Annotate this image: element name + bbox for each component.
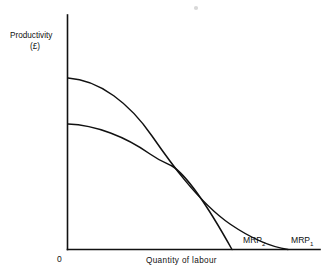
y-axis-label-line1: Productivity xyxy=(10,31,53,40)
y-axis-label-line2: (£) xyxy=(30,42,40,51)
scan-artifact-speck xyxy=(194,6,198,10)
curve-label-mrp2-text: MRP xyxy=(243,235,262,245)
curve-mrp2 xyxy=(68,124,232,250)
curve-mrp1 xyxy=(68,78,288,250)
curve-label-mrp1: MRP1 xyxy=(291,235,314,247)
curve-label-mrp1-subscript: 1 xyxy=(310,240,314,247)
mrp-chart-svg: Productivity (£) 0 Quantity of labour MR… xyxy=(0,0,332,273)
curve-label-mrp1-text: MRP xyxy=(291,235,310,245)
x-axis-label: Quantity of labour xyxy=(146,256,217,265)
curve-label-mrp2: MRP2 xyxy=(243,235,266,247)
origin-label: 0 xyxy=(57,254,62,264)
chart-figure: Productivity (£) 0 Quantity of labour MR… xyxy=(0,0,332,273)
curve-label-mrp2-subscript: 2 xyxy=(262,240,266,247)
